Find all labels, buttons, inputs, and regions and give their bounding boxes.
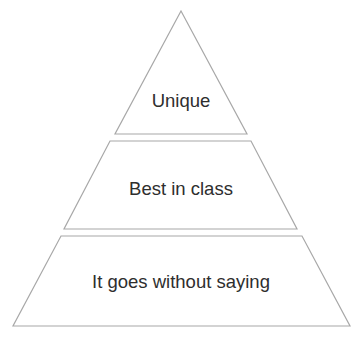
tier-top-label: Unique <box>152 90 211 111</box>
tier-bottom-label: It goes without saying <box>92 271 270 292</box>
tier-top: Unique <box>115 11 247 134</box>
tier-bottom: It goes without saying <box>13 236 350 326</box>
tier-middle: Best in class <box>64 141 297 229</box>
pyramid-diagram: Unique Best in class It goes without say… <box>0 0 358 337</box>
tier-top-shape <box>115 11 247 134</box>
tier-middle-label: Best in class <box>129 178 233 199</box>
